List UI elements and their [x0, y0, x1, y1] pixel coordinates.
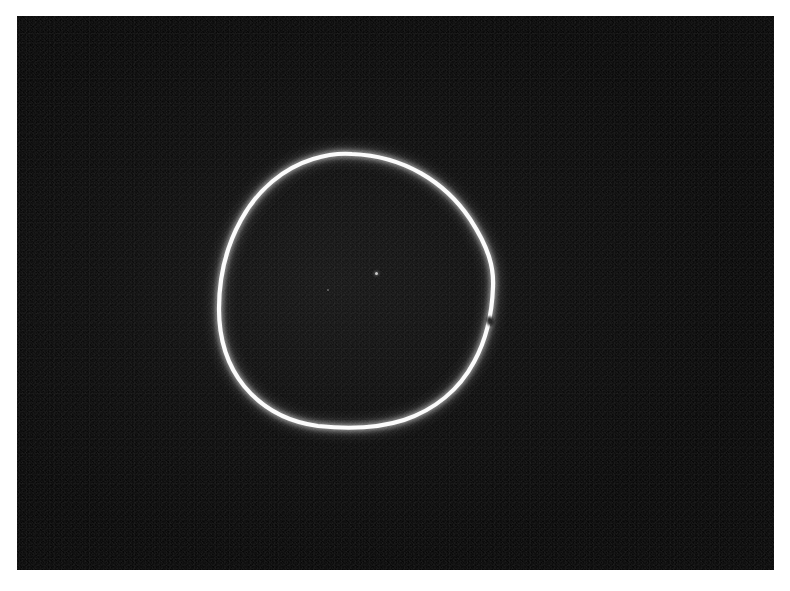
photograph-page: [0, 0, 790, 591]
ring-graphic: [17, 16, 774, 570]
photo-plate: [17, 16, 774, 570]
film-grain-layer-fine: [17, 16, 774, 570]
ring-bloom: [219, 154, 493, 428]
emulsion-scratch-1: [549, 68, 570, 85]
film-grain-layer: [17, 16, 774, 570]
ring-halo: [219, 154, 493, 428]
emulsion-scratch-4: [117, 184, 126, 200]
emulsion-scratch-2: [717, 283, 730, 289]
secondary-speck: [327, 289, 329, 291]
plate-vignette: [17, 16, 774, 570]
ring-path-group: [219, 154, 493, 428]
interior-speck: [375, 272, 378, 275]
ring-core: [219, 154, 493, 428]
ring-notch: [486, 316, 495, 327]
emulsion-scratch-3: [537, 515, 557, 519]
ring-layer: [17, 16, 774, 570]
ring-notch-shape: [486, 316, 495, 327]
